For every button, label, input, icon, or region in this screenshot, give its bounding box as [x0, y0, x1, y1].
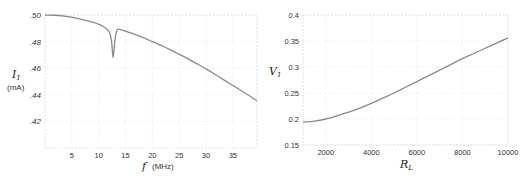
y-tick-label: 0.25 — [284, 89, 299, 98]
x-tick-label: 25 — [175, 151, 183, 160]
left-y-axis-label: I1 (mA) — [7, 68, 25, 92]
x-tick-label: 5 — [70, 151, 74, 160]
current-vs-frequency-chart: .50.48.46.44.42 5101520253035 I1 (mA) f … — [7, 11, 257, 173]
svg-text:RL: RL — [399, 158, 413, 172]
svg-text:I1: I1 — [11, 68, 21, 82]
x-tick-label: 10 — [94, 151, 102, 160]
y-tick-label: .46 — [30, 64, 42, 73]
y-tick-label: 0.15 — [284, 141, 299, 150]
y-tick-label: .44 — [30, 91, 42, 100]
right-grid — [303, 15, 508, 145]
x-tick-label: 6000 — [409, 148, 426, 157]
voltage-vs-load-resistance-chart: 0.40.350.30.250.20.15 200040006000800010… — [269, 11, 518, 172]
charts-canvas: .50.48.46.44.42 5101520253035 I1 (mA) f … — [0, 0, 527, 177]
y-tick-label: 0.4 — [289, 11, 299, 20]
x-tick-label: 15 — [121, 151, 129, 160]
right-y-axis-label: V1 — [269, 65, 281, 79]
right-plot-frame — [303, 15, 508, 145]
y-tick-label: .48 — [30, 38, 42, 47]
left-y-axis-ticks: .50.48.46.44.42 — [30, 11, 42, 126]
y-tick-label: .42 — [30, 117, 42, 126]
x-tick-label: 30 — [202, 151, 210, 160]
x-tick-label: 35 — [229, 151, 237, 160]
y-tick-label: 0.3 — [289, 63, 299, 72]
right-x-axis-ticks: 200040006000800010000 — [317, 148, 518, 157]
svg-text:(MHz): (MHz) — [152, 162, 174, 171]
svg-text:(mA): (mA) — [7, 83, 25, 92]
right-x-axis-label: RL — [399, 158, 413, 172]
y-tick-label: 0.35 — [284, 37, 299, 46]
y-tick-label: .50 — [30, 11, 42, 20]
x-tick-label: 20 — [148, 151, 156, 160]
left-x-axis-label: f (MHz) — [141, 160, 174, 173]
x-tick-label: 4000 — [363, 148, 380, 157]
y-tick-label: 0.2 — [289, 115, 299, 124]
svg-text:f: f — [141, 160, 148, 173]
x-tick-label: 8000 — [454, 148, 471, 157]
left-x-axis-ticks: 5101520253035 — [70, 151, 237, 160]
right-series-line — [303, 38, 508, 122]
svg-text:V1: V1 — [269, 65, 281, 79]
x-tick-label: 10000 — [498, 148, 519, 157]
x-tick-label: 2000 — [317, 148, 334, 157]
right-y-axis-ticks: 0.40.350.30.250.20.15 — [284, 11, 299, 150]
left-series-line — [45, 15, 257, 101]
